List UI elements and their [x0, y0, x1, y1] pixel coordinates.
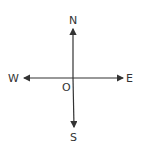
north-label: N: [69, 14, 77, 27]
east-label: E: [126, 72, 133, 85]
origin-label: O: [62, 81, 71, 94]
compass-diagram: N S E W O: [0, 0, 142, 148]
south-arrow: [73, 78, 74, 127]
south-label: S: [70, 131, 77, 144]
west-label: W: [8, 72, 19, 85]
